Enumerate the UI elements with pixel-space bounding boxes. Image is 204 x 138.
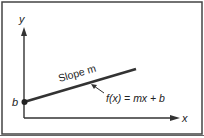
figure-frame — [2, 2, 202, 134]
x-axis-arrow-icon — [170, 115, 180, 121]
x-axis-label: x — [182, 113, 188, 124]
linear-function-diagram — [0, 0, 204, 138]
equation-pointer — [94, 86, 104, 93]
equation-pointer-arrow-icon — [91, 84, 97, 89]
intercept-point — [22, 99, 28, 105]
intercept-label: b — [12, 97, 18, 108]
y-axis-arrow-icon — [21, 27, 27, 36]
y-axis-label: y — [19, 14, 25, 25]
equation-label: f(x) = mx + b — [106, 93, 165, 104]
